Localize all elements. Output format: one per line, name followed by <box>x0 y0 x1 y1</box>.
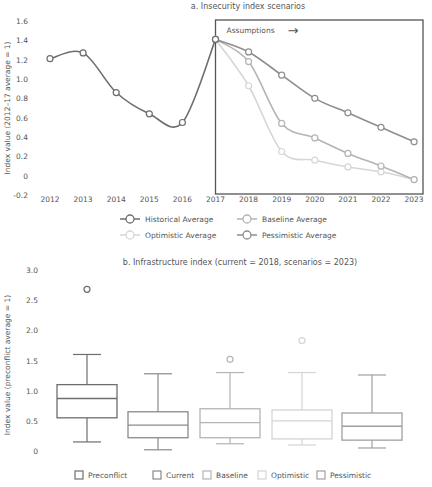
y-tick-label: 1.0 <box>26 387 38 396</box>
insecurity-chart: a. Insecurity index scenarios Index valu… <box>3 2 424 240</box>
series-lines <box>47 36 417 182</box>
legend-label: Historical Average <box>145 215 214 224</box>
data-point <box>246 49 252 55</box>
assumptions-label: Assumptions <box>227 26 275 35</box>
x-tick-label: 2013 <box>74 195 93 204</box>
figure: a. Insecurity index scenarios Index valu… <box>0 0 432 487</box>
legend-label: Current <box>166 471 194 480</box>
data-point <box>113 90 119 96</box>
data-point <box>411 139 417 145</box>
legend-marker <box>243 231 251 239</box>
box-plot-current <box>128 374 188 450</box>
legend-marker <box>126 231 134 239</box>
data-point <box>213 36 219 42</box>
data-point <box>80 50 86 56</box>
y-axis-label: Index value (2012–17 average = 1) <box>3 41 12 174</box>
y-tick-label: 0.5 <box>26 417 38 426</box>
y-tick-label: -0.2 <box>13 191 28 200</box>
outlier-point <box>84 286 90 292</box>
data-point <box>378 163 384 169</box>
data-point <box>146 111 152 117</box>
data-point <box>312 157 318 163</box>
data-point <box>246 83 252 89</box>
y-axis-ticks: 1.61.41.21.00.80.60.40.20-0.2 <box>13 17 28 200</box>
chart-title: b. Infrastructure index (current = 2018,… <box>123 258 357 267</box>
box-plot-baseline <box>200 356 260 443</box>
outlier-point <box>227 356 233 362</box>
legend: Historical AverageBaseline AverageOptimi… <box>120 215 337 240</box>
y-axis-label: Index value (preconflict average = 1) <box>3 295 12 435</box>
x-tick-label: 2022 <box>371 195 390 204</box>
data-point <box>378 124 384 130</box>
legend: PreconflictCurrentBaselineOptimisticPess… <box>75 471 371 480</box>
series-line <box>50 39 216 127</box>
data-point <box>279 149 285 155</box>
y-tick-label: 0.8 <box>16 94 28 103</box>
data-point <box>345 110 351 116</box>
y-tick-label: 0.4 <box>16 133 28 142</box>
y-tick-label: 0 <box>33 447 38 456</box>
legend-label: Pessimistic Average <box>262 231 337 240</box>
box-plot-preconflict <box>57 286 117 442</box>
data-point <box>312 135 318 141</box>
chart-title: a. Insecurity index scenarios <box>191 2 305 11</box>
legend-label: Preconflict <box>88 471 127 480</box>
x-tick-label: 2021 <box>338 195 357 204</box>
y-tick-label: 1.5 <box>26 357 38 366</box>
y-tick-label: 1.0 <box>16 75 28 84</box>
legend-swatch <box>317 471 325 479</box>
box-plots <box>57 286 402 449</box>
x-tick-label: 2020 <box>305 195 324 204</box>
legend-label: Optimistic <box>271 471 309 480</box>
legend-label: Pessimistic <box>330 471 371 480</box>
legend-label: Baseline <box>216 471 248 480</box>
y-tick-label: 1.2 <box>16 56 28 65</box>
data-point <box>179 120 185 126</box>
x-tick-label: 2018 <box>239 195 258 204</box>
y-tick-label: 0.6 <box>16 114 28 123</box>
legend-label: Optimistic Average <box>145 231 217 240</box>
arrow-right-icon: → <box>288 23 299 38</box>
x-tick-label: 2015 <box>140 195 159 204</box>
y-tick-label: 2.0 <box>26 326 38 335</box>
data-point <box>279 120 285 126</box>
data-point <box>345 164 351 170</box>
y-tick-label: 1.4 <box>16 36 28 45</box>
data-point <box>312 95 318 101</box>
data-point <box>345 150 351 156</box>
assumptions-box: Assumptions→ <box>216 20 424 194</box>
infrastructure-chart: b. Infrastructure index (current = 2018,… <box>3 258 402 480</box>
legend-marker <box>243 215 251 223</box>
box-plot-optimistic <box>272 338 332 445</box>
y-tick-label: 1.6 <box>16 17 28 26</box>
assumptions-frame <box>216 20 424 194</box>
outlier-point <box>299 338 305 344</box>
y-tick-label: 2.5 <box>26 296 38 305</box>
y-tick-label: 0.2 <box>16 152 28 161</box>
data-point <box>378 169 384 175</box>
x-tick-label: 2023 <box>405 195 424 204</box>
legend-swatch <box>203 471 211 479</box>
x-tick-label: 2017 <box>206 195 225 204</box>
x-tick-label: 2019 <box>272 195 291 204</box>
legend-swatch <box>153 471 161 479</box>
data-point <box>47 56 53 62</box>
x-tick-label: 2012 <box>40 195 59 204</box>
legend-marker <box>126 215 134 223</box>
x-tick-label: 2014 <box>107 195 126 204</box>
data-point <box>411 177 417 183</box>
box-plot-pessimistic <box>342 375 402 448</box>
legend-label: Baseline Average <box>262 215 327 224</box>
legend-swatch <box>75 471 83 479</box>
y-tick-label: 0 <box>23 172 28 181</box>
y-axis-ticks: 3.02.52.01.51.00.50 <box>26 266 38 456</box>
data-point <box>279 72 285 78</box>
y-tick-label: 3.0 <box>26 266 38 275</box>
legend-swatch <box>258 471 266 479</box>
x-tick-label: 2016 <box>173 195 192 204</box>
data-point <box>246 59 252 65</box>
x-axis-ticks: 2012201320142015201620172018201920202021… <box>40 195 423 204</box>
